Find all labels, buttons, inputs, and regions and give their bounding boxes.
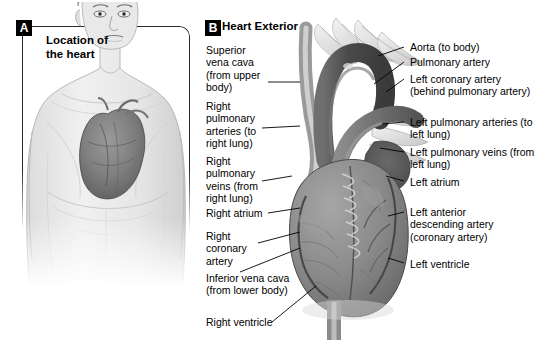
label-superior-vena-cava: Superior vena cava (from upper body) xyxy=(206,44,268,93)
label-pulmonary-artery: Pulmonary artery xyxy=(410,56,538,68)
label-left-coronary-artery: Left coronary artery (behind pulmonary a… xyxy=(410,73,536,98)
label-inferior-vena-cava: Inferior vena cava (from lower body) xyxy=(206,272,292,297)
label-right-ventricle: Right ventricle xyxy=(206,316,286,328)
label-left-ventricle: Left ventricle xyxy=(410,258,530,270)
label-right-pulmonary-arteries: Right pulmonary arteries (to right lung) xyxy=(206,100,266,149)
panel-b-title: Heart Exterior xyxy=(222,20,298,32)
label-left-pulmonary-arteries: Left pulmonary arteries (to left lung) xyxy=(410,116,538,141)
panel-a-badge: A xyxy=(16,20,32,36)
label-right-coronary-artery: Right coronary artery xyxy=(206,230,260,267)
label-right-atrium: Right atrium xyxy=(206,207,276,219)
figure-canvas: A Location of the heart xyxy=(0,0,542,352)
label-left-atrium: Left atrium xyxy=(410,176,530,188)
panel-b-badge: B xyxy=(205,20,221,36)
label-left-pulmonary-veins: Left pulmonary veins (from left lung) xyxy=(410,146,538,171)
label-right-pulmonary-veins: Right pulmonary veins (from right lung) xyxy=(206,155,266,204)
label-left-anterior-descending-artery: Left anterior descending artery (coronar… xyxy=(410,206,520,243)
label-aorta: Aorta (to body) xyxy=(410,41,538,53)
panel-a-caption: Location of the heart xyxy=(46,33,116,61)
